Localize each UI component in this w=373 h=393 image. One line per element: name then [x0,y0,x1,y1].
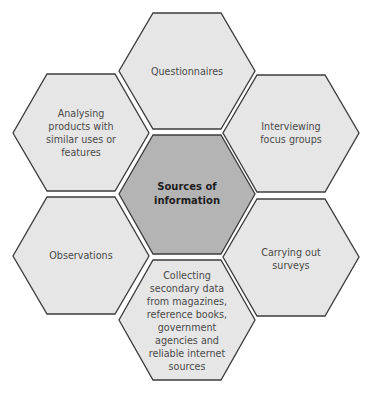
label-collecting-secondary-data: Collecting secondary data from magazines… [127,268,247,374]
label-questionnaires: Questionnaires [127,41,247,101]
label-sources-of-information: Sources of information [127,172,247,216]
label-carrying-out-surveys: Carrying out surveys [232,245,350,273]
label-analysing-products: Analysing products with similar uses or … [22,100,140,166]
label-observations: Observations [22,240,140,270]
label-interviewing-focus-groups: Interviewing focus groups [232,108,350,158]
sources-of-information-diagram: Questionnaires Analysing products with s… [0,0,373,393]
